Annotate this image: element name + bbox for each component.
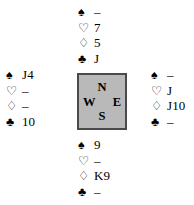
diamond-icon: ♢ [78,36,91,52]
club-icon: ♣ [78,185,91,201]
diamond-icon: ♢ [78,169,91,185]
spade-icon: ♠ [6,68,19,84]
hand-south-spades-row: ♠ 9 [78,137,110,153]
hand-south-spades: 9 [91,137,101,153]
hand-east-spades-row: ♠ – [151,67,185,83]
club-icon: ♣ [6,115,19,131]
hand-north-spades-row: ♠ – [78,4,101,20]
hand-west-clubs: 10 [19,114,35,130]
hand-west-diamonds-row: ♢ – [6,98,35,114]
bridge-hand-diagram: ♠ – ♡ 7 ♢ 5 ♣ J ♠ J4 ♡ – ♢ – ♣ [0,0,194,205]
hand-west-spades-row: ♠ J4 [6,67,35,83]
hand-west-hearts-row: ♡ – [6,83,35,99]
hand-east-hearts: J [164,83,172,99]
hand-south-diamonds-row: ♢ K9 [78,168,110,184]
heart-icon: ♡ [78,154,91,170]
hand-north-hearts: 7 [91,20,101,36]
hand-east-clubs: – [164,114,174,130]
diamond-icon: ♢ [6,99,19,115]
spade-icon: ♠ [151,68,164,84]
hand-north: ♠ – ♡ 7 ♢ 5 ♣ J [78,4,101,66]
hand-south-hearts: – [91,153,101,169]
hand-north-diamonds: 5 [91,35,101,51]
hand-north-hearts-row: ♡ 7 [78,20,101,36]
hand-south: ♠ 9 ♡ – ♢ K9 ♣ – [78,137,110,199]
compass-label-east: E [113,95,121,108]
hand-south-hearts-row: ♡ – [78,153,110,169]
hand-west-spades: J4 [19,67,34,83]
hand-south-clubs: – [91,184,101,200]
club-icon: ♣ [151,115,164,131]
hand-north-spades: – [91,4,101,20]
hand-east-diamonds: J10 [164,98,185,114]
hand-west-hearts: – [19,83,29,99]
compass-label-west: W [83,95,96,108]
hand-south-diamonds: K9 [91,168,110,184]
hand-north-clubs-row: ♣ J [78,51,101,67]
heart-icon: ♡ [151,84,164,100]
hand-east-hearts-row: ♡ J [151,83,185,99]
compass-label-north: N [79,81,125,94]
hand-north-clubs: J [91,51,99,67]
compass-box: N W E S [77,73,127,130]
spade-icon: ♠ [78,138,91,154]
hand-west: ♠ J4 ♡ – ♢ – ♣ 10 [6,67,35,129]
hand-north-diamonds-row: ♢ 5 [78,35,101,51]
hand-east-diamonds-row: ♢ J10 [151,98,185,114]
heart-icon: ♡ [6,84,19,100]
club-icon: ♣ [78,52,91,68]
heart-icon: ♡ [78,21,91,37]
hand-east-clubs-row: ♣ – [151,114,185,130]
diamond-icon: ♢ [151,99,164,115]
hand-west-diamonds: – [19,98,29,114]
spade-icon: ♠ [78,5,91,21]
hand-west-clubs-row: ♣ 10 [6,114,35,130]
hand-south-clubs-row: ♣ – [78,184,110,200]
hand-east: ♠ – ♡ J ♢ J10 ♣ – [151,67,185,129]
compass-label-south: S [79,110,125,123]
hand-east-spades: – [164,67,174,83]
